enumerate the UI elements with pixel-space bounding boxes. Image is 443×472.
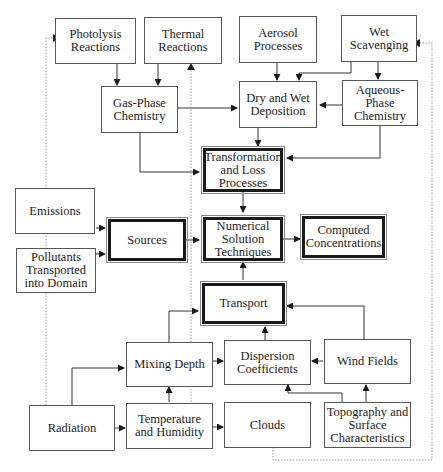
node-dry-wet-deposition: Dry and Wet Deposition [239, 81, 317, 128]
node-computed-concentrations: Computed Concentrations [302, 216, 385, 258]
edge-gasphase-transformation [140, 132, 199, 172]
edge-radiation-mixing [72, 368, 124, 405]
air-quality-model-diagram: Photolysis Reactions Thermal Reactions A… [0, 0, 443, 472]
node-radiation: Radiation [29, 405, 115, 451]
node-aqueous-phase-chemistry: Aqueous- Phase Chemistry [342, 80, 418, 126]
node-numerical-solution-techniques: Numerical Solution Techniques [203, 217, 283, 261]
node-clouds: Clouds [224, 402, 311, 448]
edge-mixing-transport [169, 311, 198, 342]
node-photolysis-reactions: Photolysis Reactions [55, 18, 136, 64]
arrowhead-thermal [187, 63, 195, 70]
node-temperature-humidity: Temperature and Humidity [126, 403, 213, 449]
node-dispersion-coefficients: Dispersion Coefficients [224, 340, 311, 385]
node-emissions: Emissions [15, 188, 95, 234]
node-pollutants-transported: Pollutants Transported into Domain [16, 248, 96, 293]
edge-topography-dispersion [288, 385, 342, 402]
node-wind-fields: Wind Fields [324, 339, 411, 384]
node-transport: Transport [202, 283, 285, 324]
node-transformation-loss-processes: Transformation and Loss Processes [203, 148, 283, 192]
node-topography-surface: Topography and Surface Characteristics [324, 402, 411, 448]
node-thermal-reactions: Thermal Reactions [144, 17, 222, 64]
node-wet-scavenging: Wet Scavenging [341, 15, 417, 62]
node-mixing-depth: Mixing Depth [126, 342, 213, 387]
edge-wetscav-deposition [299, 62, 351, 80]
edge-aqueous-transformation [287, 125, 380, 158]
node-sources: Sources [108, 219, 186, 261]
edge-wind-transport [287, 306, 364, 339]
node-aerosol-processes: Aerosol Processes [239, 16, 317, 63]
node-gas-phase-chemistry: Gas-Phase Chemistry [101, 86, 178, 133]
